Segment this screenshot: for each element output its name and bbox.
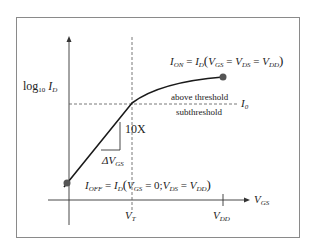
- above-threshold-label: above threshold: [171, 93, 228, 102]
- ioff-equation: IOFF = ID(VGS = 0;VDS = VDD): [85, 178, 211, 193]
- ion-equation: ION = ID(VGS = VDS = VDD): [170, 54, 283, 69]
- y-axis-label: log10 ID: [23, 80, 57, 94]
- subthreshold-label: subthreshold: [176, 108, 222, 117]
- x-axis-label: VGS: [254, 194, 269, 207]
- diagram-canvas: [0, 0, 315, 250]
- ion-point: [220, 74, 227, 81]
- vt-tick-label: VT: [125, 210, 136, 223]
- i0-label: I0: [241, 98, 248, 111]
- ioff-point: [64, 180, 71, 187]
- slope-10x-label: 10X: [125, 123, 146, 135]
- delta-vgs-label: ΔVGS: [102, 155, 124, 168]
- vdd-tick-label: VDD: [213, 210, 230, 223]
